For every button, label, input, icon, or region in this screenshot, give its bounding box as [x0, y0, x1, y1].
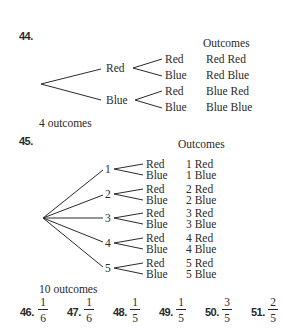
problem-number: 48.: [113, 306, 127, 318]
fraction-bar: [222, 309, 232, 310]
tree-node-blue: Blue: [106, 94, 128, 106]
outcome: Red Red: [206, 53, 246, 65]
denominator: 6: [84, 312, 94, 324]
fraction: 1 6: [38, 296, 48, 324]
tree-leaf: Blue: [146, 194, 168, 206]
outcome: 3 Blue: [186, 218, 216, 230]
problem-number: 50.: [205, 306, 219, 318]
outcome: Blue Blue: [206, 101, 252, 113]
fraction-bar: [176, 309, 186, 310]
tree-node-4: 4: [105, 237, 111, 249]
problem-number: 46.: [20, 306, 34, 318]
fraction: 1 5: [130, 296, 140, 324]
numerator: 1: [38, 296, 48, 308]
fraction-bar: [38, 309, 48, 310]
tree-leaf: Red: [165, 85, 184, 97]
tree-leaf: Blue: [165, 69, 187, 81]
denominator: 5: [268, 312, 278, 324]
denominator: 5: [176, 312, 186, 324]
denominator: 5: [222, 312, 232, 324]
numerator: 3: [222, 296, 232, 308]
outcome: 1 Blue: [186, 169, 216, 181]
tree-leaf: Red: [165, 53, 184, 65]
tree-leaf: Blue: [165, 101, 187, 113]
outcome: Blue Red: [206, 85, 249, 97]
problem-number: 44.: [19, 30, 33, 42]
outcome: Red Blue: [206, 69, 249, 81]
outcomes-header: Outcomes: [178, 138, 225, 150]
outcome: 5 Blue: [186, 268, 216, 280]
numerator: 1: [130, 296, 140, 308]
tree-leaf: Blue: [146, 218, 168, 230]
denominator: 6: [38, 312, 48, 324]
fraction-bar: [130, 309, 140, 310]
denominator: 5: [130, 312, 140, 324]
tree-node-red: Red: [106, 62, 125, 74]
fraction: 1 6: [84, 296, 94, 324]
outcomes-header: Outcomes: [203, 37, 250, 49]
tree-leaf: Blue: [146, 243, 168, 255]
problem-number: 47.: [67, 306, 81, 318]
tree-node-3: 3: [105, 212, 111, 224]
tree-node-2: 2: [105, 188, 111, 200]
fraction: 2 5: [268, 296, 278, 324]
fraction-bar: [84, 309, 94, 310]
tree-leaf: Blue: [146, 169, 168, 181]
fraction-bar: [268, 309, 278, 310]
tree-leaf: Blue: [146, 268, 168, 280]
tree-node-5: 5: [105, 262, 111, 274]
outcome: 4 Blue: [186, 243, 216, 255]
outcome: 2 Blue: [186, 194, 216, 206]
tree-node-1: 1: [105, 163, 111, 175]
numerator: 2: [268, 296, 278, 308]
problem-number: 45.: [19, 135, 33, 147]
numerator: 1: [84, 296, 94, 308]
outcome-count: 10 outcomes: [39, 283, 97, 295]
problem-number: 49.: [159, 306, 173, 318]
fraction: 1 5: [176, 296, 186, 324]
outcome-count: 4 outcomes: [39, 117, 92, 129]
problem-number: 51.: [251, 306, 265, 318]
numerator: 1: [176, 296, 186, 308]
fraction: 3 5: [222, 296, 232, 324]
